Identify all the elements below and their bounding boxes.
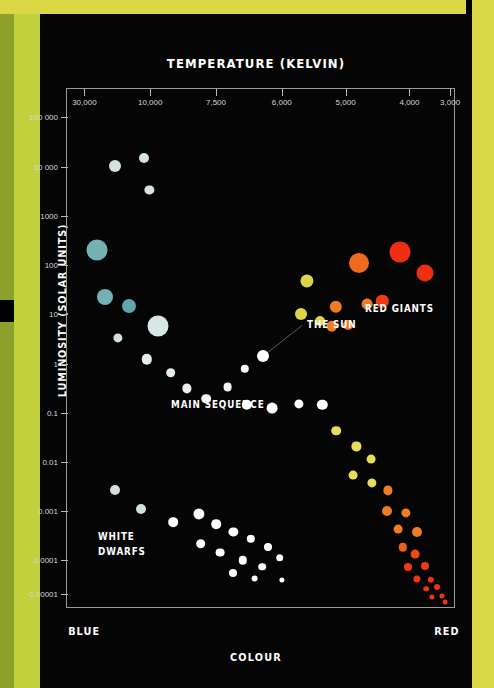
star-marker-white-dwarfs	[239, 556, 247, 564]
y-axis-tick-label: 10	[49, 310, 58, 319]
x-axis-tick-label: 30,000	[72, 98, 96, 107]
star-marker-main-sequence	[367, 478, 376, 487]
star-marker-main-sequence	[399, 543, 407, 551]
star-marker-white-dwarfs	[247, 534, 255, 542]
star-marker-main-sequence	[166, 368, 176, 378]
y-axis-tick	[61, 594, 68, 595]
y-axis-tick-label: 0.00001	[29, 590, 58, 599]
star-marker-main-sequence	[401, 508, 410, 517]
star-marker-white-dwarfs	[259, 563, 267, 571]
star-marker-red-giants	[300, 274, 313, 287]
y-axis-tick-label: 0.01	[42, 457, 58, 466]
plot-inner: 30,00010,0007,5006,0005,0004,0003,000100…	[67, 89, 454, 607]
star-marker-main-sequence	[349, 471, 358, 480]
star-marker-main-sequence	[113, 333, 122, 342]
x-axis-tick	[409, 89, 410, 96]
x-axis-tick-label: 6,000	[272, 98, 292, 107]
x-axis-tick-label: 7,500	[206, 98, 226, 107]
star-marker-supergiants	[109, 160, 121, 172]
y-axis-tick	[61, 265, 68, 266]
star-marker-main-sequence	[241, 365, 249, 373]
y-axis-tick	[61, 117, 68, 118]
star-marker-main-sequence	[411, 550, 420, 559]
annotation-white-dwarfs: WHITE DWARFS	[98, 529, 146, 559]
x-axis-red-end-label: RED	[424, 625, 459, 638]
star-marker-main-sequence	[257, 350, 269, 362]
x-axis-tick	[282, 89, 283, 96]
star-marker-white-dwarfs	[136, 504, 146, 514]
star-marker-white-dwarfs	[229, 569, 237, 577]
decorative-left-edge-band	[0, 0, 14, 688]
star-marker-main-sequence	[86, 239, 107, 260]
star-marker-supergiants	[145, 185, 154, 194]
x-axis-tick	[450, 89, 451, 96]
star-marker-main-sequence	[393, 525, 402, 534]
y-axis-tick-label: 0.001	[38, 507, 58, 516]
star-marker-white-dwarfs	[279, 577, 284, 582]
star-marker-white-dwarfs	[215, 548, 224, 557]
decorative-right-band	[472, 0, 494, 688]
star-marker-main-sequence	[434, 584, 440, 590]
x-axis-tick-label: 3,000	[440, 98, 460, 107]
star-marker-white-dwarfs	[193, 508, 204, 519]
star-marker-main-sequence	[366, 455, 375, 464]
star-marker-white-dwarfs	[211, 519, 221, 529]
decorative-left-band	[14, 0, 40, 688]
star-marker-main-sequence	[223, 383, 232, 392]
star-marker-main-sequence	[122, 299, 136, 313]
star-marker-white-dwarfs	[276, 554, 284, 562]
star-marker-main-sequence	[142, 354, 152, 364]
star-marker-main-sequence	[97, 289, 113, 305]
star-marker-main-sequence	[352, 442, 361, 451]
star-marker-main-sequence	[382, 506, 392, 516]
annotation-red-giants: RED GIANTS	[365, 301, 434, 316]
plot-area: 30,00010,0007,5006,0005,0004,0003,000100…	[66, 88, 455, 608]
chart-stage: TEMPERATURE (KELVIN) LUMINOSITY (SOLAR U…	[40, 14, 472, 688]
star-marker-white-dwarfs	[229, 527, 238, 536]
star-marker-main-sequence	[182, 384, 191, 393]
star-marker-main-sequence	[267, 403, 278, 414]
y-axis-tick	[61, 167, 68, 168]
y-axis-tick	[61, 462, 68, 463]
x-axis-title: COLOUR	[66, 651, 446, 664]
y-axis-tick-label: 1	[54, 359, 58, 368]
star-marker-main-sequence	[331, 426, 341, 436]
x-axis-tick-label: 5,000	[336, 98, 356, 107]
y-axis-tick	[61, 560, 68, 561]
x-axis-tick-label: 4,000	[399, 98, 419, 107]
y-axis-tick	[61, 413, 68, 414]
star-marker-main-sequence	[439, 593, 444, 598]
x-axis-blue-end-label: BLUE	[68, 625, 100, 638]
y-axis-tick	[61, 216, 68, 217]
star-marker-red-giants	[330, 300, 342, 312]
annotation-main-sequence: MAIN SEQUENCE	[171, 397, 265, 412]
star-marker-red-giants	[389, 242, 410, 263]
star-marker-red-giants	[416, 264, 433, 281]
star-marker-main-sequence	[404, 563, 412, 571]
y-axis-tick-label: 100	[45, 261, 58, 270]
star-marker-main-sequence	[412, 527, 422, 537]
star-marker-main-sequence	[384, 486, 393, 495]
star-marker-red-giants	[349, 253, 369, 273]
star-marker-main-sequence	[421, 562, 429, 570]
x-axis-tick	[346, 89, 347, 96]
y-axis-tick-label: 0.0001	[34, 556, 58, 565]
star-marker-supergiants	[139, 153, 149, 163]
decorative-left-notch	[0, 300, 14, 322]
chart-title: TEMPERATURE (KELVIN)	[62, 56, 451, 71]
y-axis-tick	[61, 364, 68, 365]
annotation-the-sun: THE SUN	[307, 317, 356, 332]
star-marker-main-sequence	[428, 577, 434, 583]
star-marker-red-giants	[295, 308, 307, 320]
star-marker-white-dwarfs	[110, 485, 120, 495]
star-marker-main-sequence	[317, 400, 327, 410]
x-axis-tick	[84, 89, 85, 96]
y-axis-tick-label: 0.1	[47, 408, 58, 417]
star-marker-main-sequence	[429, 594, 434, 599]
star-marker-main-sequence	[414, 575, 421, 582]
poster-canvas: TEMPERATURE (KELVIN) LUMINOSITY (SOLAR U…	[0, 0, 494, 688]
y-axis-tick	[61, 314, 68, 315]
y-axis-tick-label: 10 000	[34, 162, 58, 171]
y-axis-tick	[61, 511, 68, 512]
star-marker-main-sequence	[423, 586, 429, 592]
